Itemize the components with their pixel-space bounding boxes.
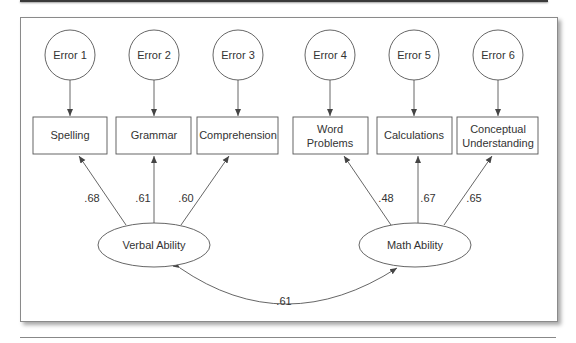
error-label-6: Error 6 [481, 49, 515, 61]
correlation-label: .61 [276, 295, 291, 307]
indicator-label-conceptual-2: Understanding [462, 137, 534, 149]
error-nodes: Error 1 Error 2 Error 3 Error 4 Error 5 … [45, 30, 523, 80]
sem-diagram: Error 1 Error 2 Error 3 Error 4 Error 5 … [0, 0, 576, 343]
error-label-2: Error 2 [137, 49, 171, 61]
indicator-label-word-problems-2: Problems [307, 137, 354, 149]
error-label-4: Error 4 [313, 49, 347, 61]
factor-label-verbal: Verbal Ability [123, 239, 186, 251]
indicator-label-comprehension: Comprehension [199, 129, 277, 141]
factor-nodes: Verbal Ability Math Ability [98, 223, 471, 267]
loading-comprehension: .60 [178, 192, 193, 204]
indicator-label-calculations: Calculations [384, 129, 444, 141]
error-label-5: Error 5 [397, 49, 431, 61]
loading-spelling: .68 [84, 192, 99, 204]
loading-grammar: .61 [135, 192, 150, 204]
loading-calculations: .67 [420, 192, 435, 204]
error-label-1: Error 1 [53, 49, 87, 61]
error-label-3: Error 3 [221, 49, 255, 61]
indicator-label-spelling: Spelling [50, 129, 89, 141]
indicator-label-word-problems-1: Word [317, 123, 343, 135]
indicator-label-conceptual-1: Conceptual [470, 123, 526, 135]
loading-conceptual: .65 [466, 192, 481, 204]
loading-word-problems: .48 [378, 192, 393, 204]
factor-label-math: Math Ability [387, 239, 444, 251]
indicator-nodes: Spelling Grammar Comprehension Word Prob… [33, 117, 538, 154]
indicator-label-grammar: Grammar [131, 129, 178, 141]
